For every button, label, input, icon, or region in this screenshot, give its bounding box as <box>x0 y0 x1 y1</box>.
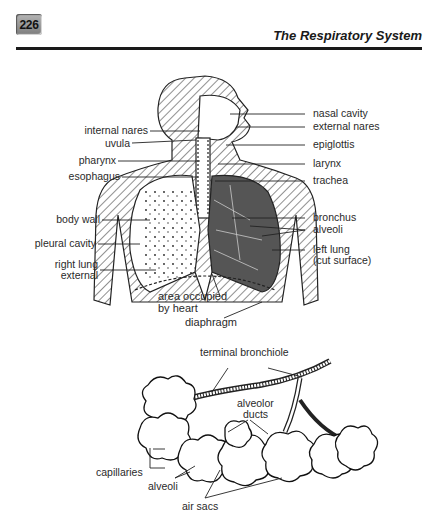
alveoli-diagram <box>0 0 438 521</box>
label-alveoli-small: alveoli <box>148 481 178 492</box>
label-air-sacs: air sacs <box>182 501 218 512</box>
label-terminal-bronchiole: terminal bronchiole <box>200 347 289 358</box>
alveolar-clusters <box>138 361 378 486</box>
label-ducts: ducts <box>243 409 268 420</box>
label-capillaries: capillaries <box>96 467 143 478</box>
